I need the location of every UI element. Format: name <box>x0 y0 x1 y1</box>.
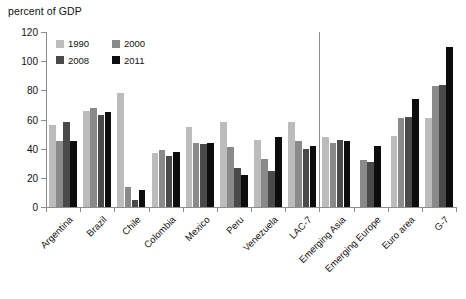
legend-swatch-icon <box>112 56 120 64</box>
x-tick-mark <box>422 207 423 212</box>
x-tick-mark <box>114 207 115 212</box>
x-tick-mark <box>354 207 355 212</box>
bar <box>56 141 63 207</box>
y-tick-label: 100 <box>0 56 38 67</box>
bar <box>330 143 337 207</box>
x-tick-label-text: LAC-7 <box>287 214 314 241</box>
y-tick-mark <box>41 149 46 150</box>
x-tick-mark <box>149 207 150 212</box>
bar <box>132 200 139 207</box>
bar <box>173 152 180 207</box>
bar <box>310 146 317 207</box>
chart-legend: 1990200020082011 <box>56 39 168 65</box>
legend-swatch-icon <box>112 40 120 48</box>
bar <box>275 137 282 207</box>
bar <box>337 140 344 207</box>
x-tick-mark <box>285 207 286 212</box>
x-tick-label-text: Mexico <box>182 214 211 243</box>
bar <box>159 150 166 207</box>
x-tick-label-text: Colombia <box>141 214 177 250</box>
y-axis-caption: percent of GDP <box>8 5 82 17</box>
bar <box>105 112 112 207</box>
bar <box>241 175 248 207</box>
bar <box>254 140 261 207</box>
y-tick-mark <box>41 120 46 121</box>
bar <box>63 122 70 207</box>
y-tick-label: 80 <box>0 85 38 96</box>
y-tick-label: 20 <box>0 172 38 183</box>
bar <box>261 159 268 207</box>
legend-swatch-icon <box>56 56 64 64</box>
legend-item: 1990 <box>56 39 112 49</box>
y-tick-mark <box>41 178 46 179</box>
bar <box>268 171 275 207</box>
y-tick-label: 120 <box>0 27 38 38</box>
legend-label: 2011 <box>124 56 144 66</box>
y-tick-mark <box>41 90 46 91</box>
y-tick-mark <box>41 32 46 33</box>
legend-item: 2000 <box>112 39 168 49</box>
x-tick-label-text: Chile <box>120 214 143 237</box>
y-axis-line <box>46 32 47 208</box>
x-tick-mark <box>388 207 389 212</box>
bar <box>344 141 351 207</box>
y-tick-label: 0 <box>0 202 38 213</box>
legend-label: 2000 <box>124 39 145 49</box>
bar <box>70 141 77 207</box>
legend-item: 2008 <box>56 56 112 66</box>
x-tick-mark <box>46 207 47 212</box>
bar <box>166 156 173 207</box>
x-tick-mark <box>183 207 184 212</box>
x-tick-mark <box>217 207 218 212</box>
bar <box>152 153 159 207</box>
y-tick-label: 40 <box>0 143 38 154</box>
legend-item: 2011 <box>112 56 168 66</box>
bar-chart: percent of GDP 020406080100120 Argentina… <box>0 0 466 299</box>
legend-label: 1990 <box>68 39 89 49</box>
category-divider-line <box>319 32 320 208</box>
bar <box>125 187 132 207</box>
bar <box>303 149 310 207</box>
x-tick-label-text: G-7 <box>432 214 451 233</box>
bar <box>234 168 241 207</box>
x-tick-label-text: Peru <box>224 214 246 236</box>
bar <box>207 143 214 207</box>
legend-swatch-icon <box>56 40 64 48</box>
x-tick-label-text: Brazil <box>84 214 109 239</box>
bar <box>117 93 124 207</box>
x-tick-mark <box>456 207 457 212</box>
legend-label: 2008 <box>68 56 89 66</box>
y-tick-mark <box>41 61 46 62</box>
x-tick-mark <box>80 207 81 212</box>
x-tick-label-text: Argentina <box>38 214 75 251</box>
y-tick-label: 60 <box>0 114 38 125</box>
x-tick-mark <box>251 207 252 212</box>
bar <box>446 47 453 207</box>
bar <box>49 125 56 207</box>
